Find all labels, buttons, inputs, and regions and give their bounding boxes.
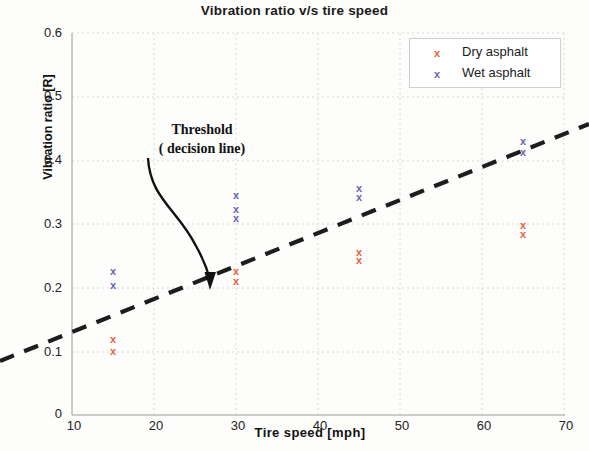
legend-label-wet-asphalt: Wet asphalt — [462, 65, 530, 80]
chart-figure: Vibration ratio v/s tire speed Vibration… — [0, 0, 589, 451]
annotation-line-1: Threshold — [112, 120, 292, 139]
threshold-annotation: Threshold ( decision line) — [112, 120, 292, 158]
legend-entry-dry-asphalt: x Dry asphalt — [410, 43, 562, 64]
threshold-decision-line — [0, 124, 589, 361]
dry-asphalt-marker-icon: x — [432, 46, 442, 60]
legend-entry-wet-asphalt: x Wet asphalt — [410, 64, 562, 85]
chart-legend: x Dry asphalt x Wet asphalt — [409, 38, 561, 88]
annotation-line-2: ( decision line) — [112, 139, 292, 158]
wet-asphalt-marker-icon: x — [432, 67, 442, 81]
legend-label-dry-asphalt: Dry asphalt — [462, 44, 528, 59]
